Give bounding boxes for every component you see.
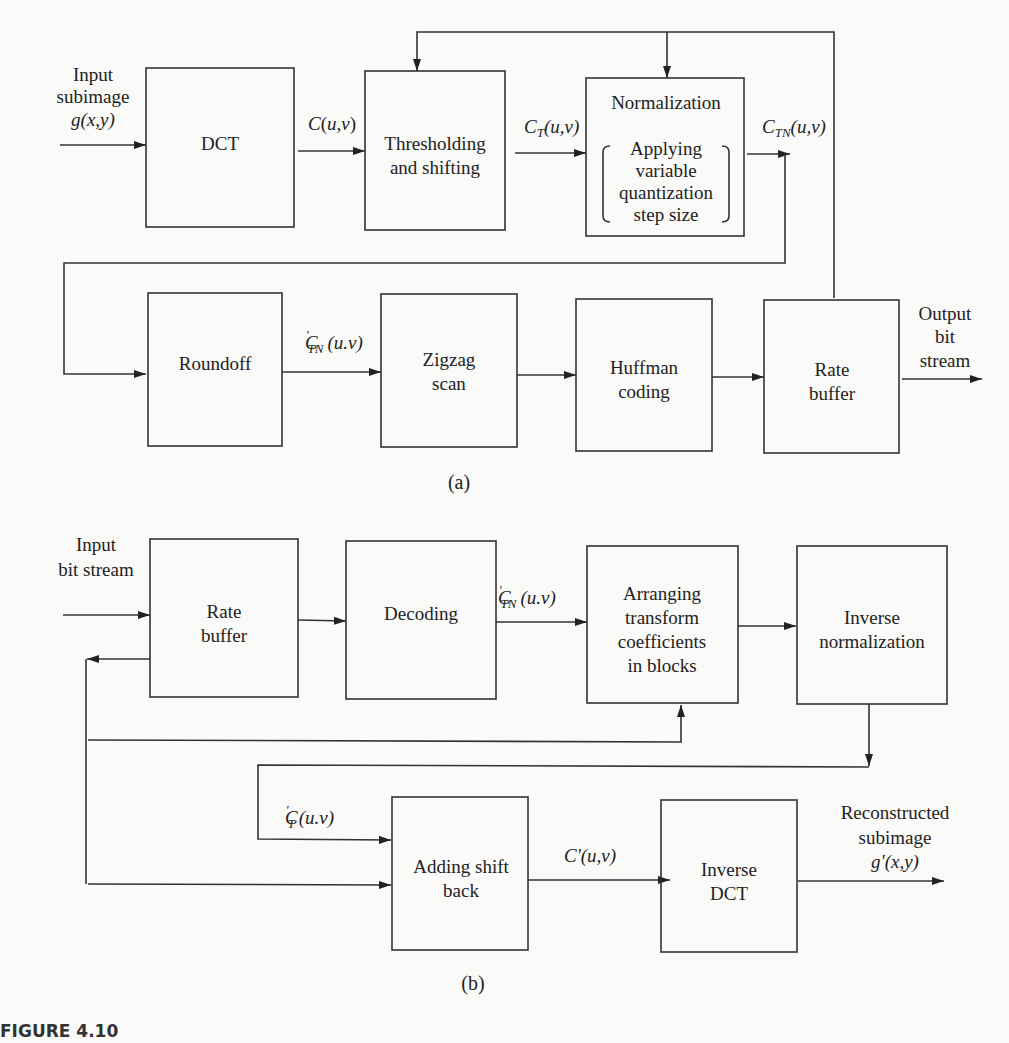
- thresholding-block: Thresholding and shifting: [365, 71, 505, 230]
- invnorm-to-adding-shift: [258, 765, 869, 840]
- signal-ct-prime: C'T(u.v): [285, 802, 334, 831]
- arranging-block: Arranging transform coefficients in bloc…: [587, 546, 738, 703]
- decoder-signal-ctn-prime: C'TN(u.v): [498, 582, 556, 611]
- huffman-label-1: Huffman: [610, 357, 679, 378]
- decoder-output-label-3: g'(x,y): [871, 851, 919, 873]
- zigzag-block: Zigzag scan: [381, 294, 517, 447]
- normalization-line-4: step size: [634, 204, 699, 225]
- normalization-line-1: Applying: [630, 138, 702, 159]
- signal-ctn: CTN(u,v): [762, 116, 826, 140]
- signal-c-prime: C'(u,v): [564, 845, 616, 867]
- right-bracket: [722, 146, 729, 222]
- huffman-label-2: coding: [618, 381, 670, 402]
- encoder-input-label-2: subimage: [57, 86, 130, 107]
- roundoff-block: Roundoff: [148, 293, 282, 446]
- decoder-caption: (b): [461, 972, 484, 995]
- zigzag-label-1: Zigzag: [423, 349, 476, 370]
- inverse-dct-label-2: DCT: [710, 883, 748, 904]
- dct-block: DCT: [146, 68, 294, 227]
- normalization-line-3: quantization: [619, 182, 713, 203]
- inverse-norm-label-1: Inverse: [844, 607, 900, 628]
- inverse-dct-block: Inverse DCT: [661, 800, 797, 952]
- encoder-output-label-3: stream: [920, 350, 971, 371]
- encoder-input-label-1: Input: [73, 64, 114, 85]
- adding-shift-label-1: Adding shift: [413, 856, 509, 877]
- arranging-label-2: transform: [625, 607, 699, 628]
- rate-buffer-block: Rate buffer: [764, 300, 899, 453]
- decoding-label: Decoding: [384, 603, 458, 624]
- inverse-dct-label-1: Inverse: [701, 859, 757, 880]
- encoder-diagram: Input subimage g(x,y) DCT C(u,v) Thresho…: [57, 32, 982, 494]
- normalization-block: Normalization Applying variable quantiza…: [586, 78, 744, 236]
- dct-label: DCT: [201, 133, 239, 154]
- arranging-label-3: coefficients: [618, 631, 706, 652]
- feedback-to-arranging: [88, 705, 681, 742]
- decoder-output-label-1: Reconstructed: [841, 802, 950, 823]
- roundoff-label: Roundoff: [179, 353, 252, 374]
- signal-ct: CT(u,v): [524, 116, 579, 140]
- decoder-rate-buffer-label-2: buffer: [201, 625, 248, 646]
- encoder-caption: (a): [448, 471, 470, 494]
- encoder-output-label-1: Output: [919, 303, 973, 324]
- decoder-input-label-1: Input: [76, 534, 117, 555]
- left-bracket: [603, 146, 610, 222]
- normalization-line-2: variable: [635, 160, 696, 181]
- decoder-rate-buffer-block: Rate buffer: [150, 539, 298, 697]
- encoder-output-label-2: bit: [935, 326, 956, 347]
- arranging-label-1: Arranging: [623, 583, 702, 604]
- signal-c: C(u,v): [308, 113, 356, 135]
- rate-buffer-label-2: buffer: [809, 383, 856, 404]
- jpeg-block-diagram: Input subimage g(x,y) DCT C(u,v) Thresho…: [0, 0, 1009, 1043]
- adding-shift-label-2: back: [443, 880, 479, 901]
- buffer-to-decoding-arrow: [298, 620, 346, 621]
- feedback-to-adding-shift: [88, 884, 391, 885]
- decoder-output-label-2: subimage: [859, 827, 932, 848]
- arranging-label-4: in blocks: [627, 655, 696, 676]
- normalization-title: Normalization: [611, 92, 721, 113]
- threshold-label-2: and shifting: [390, 157, 481, 178]
- inverse-normalization-block: Inverse normalization: [797, 546, 947, 704]
- signal-ctn-prime: C'TN(u.v): [305, 327, 363, 356]
- figure-label: FIGURE 4.10: [0, 1021, 118, 1041]
- adding-shift-block: Adding shift back: [392, 797, 528, 950]
- decoding-block: Decoding: [346, 541, 496, 699]
- zigzag-label-2: scan: [432, 373, 466, 394]
- inverse-norm-label-2: normalization: [819, 631, 925, 652]
- decoder-diagram: Input bit stream Rate buffer Decoding C'…: [58, 534, 950, 995]
- threshold-label-1: Thresholding: [384, 133, 486, 154]
- rate-buffer-label-1: Rate: [815, 359, 850, 380]
- decoder-rate-buffer-label-1: Rate: [207, 601, 242, 622]
- decoder-input-label-2: bit stream: [58, 559, 134, 580]
- encoder-input-label-3: g(x,y): [71, 109, 115, 131]
- huffman-block: Huffman coding: [576, 299, 712, 451]
